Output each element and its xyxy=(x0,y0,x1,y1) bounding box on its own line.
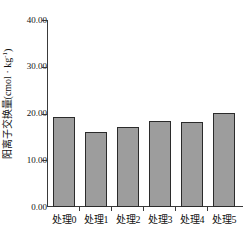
y-axis-title-tail: ) xyxy=(2,48,13,51)
bar-1 xyxy=(85,132,107,207)
bar-chart: 阳离子交换量(cmol · kg-1) 40.00 30.00 20.00 10… xyxy=(0,0,249,238)
bar-2 xyxy=(117,127,139,207)
bars-layer xyxy=(47,20,243,207)
bar-4 xyxy=(181,122,203,207)
x-tick-mark-3 xyxy=(175,207,176,211)
x-tick-mark-2 xyxy=(143,207,144,211)
y-axis-title: 阳离子交换量(cmol · kg-1) xyxy=(0,0,16,207)
y-axis-title-exponent: -1 xyxy=(1,51,9,57)
y-tick-label-0: 0.00 xyxy=(16,202,47,212)
x-tick-mark-1 xyxy=(111,207,112,211)
x-tick-mark-0 xyxy=(79,207,80,211)
bar-0 xyxy=(53,117,75,207)
x-tick-label-5: 处理5 xyxy=(199,214,249,225)
y-axis-title-base: 阳离子交换量(cmol · kg xyxy=(2,57,13,159)
x-tick-mark-4 xyxy=(207,207,208,211)
bar-3 xyxy=(149,121,171,207)
y-axis-title-text: 阳离子交换量(cmol · kg-1) xyxy=(3,48,13,159)
bar-5 xyxy=(213,113,235,207)
